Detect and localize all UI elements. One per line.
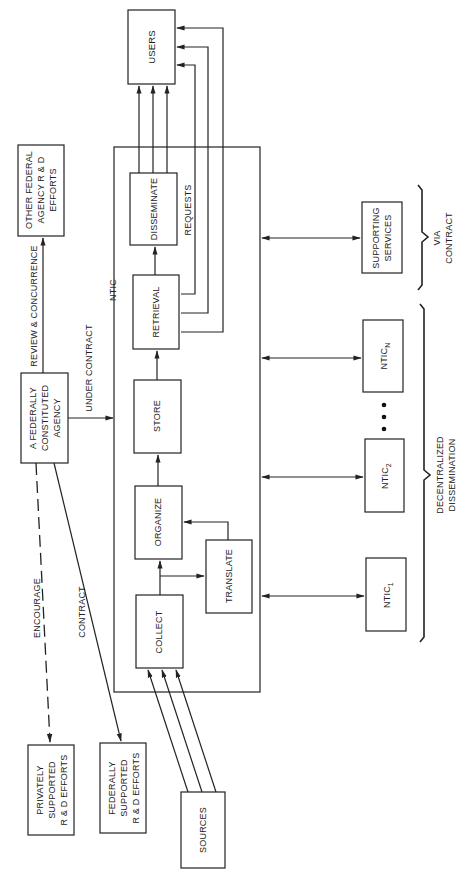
review-concurrence-label: REVIEW & CONCURRENCE xyxy=(29,245,39,367)
organize-node: ORGANIZE xyxy=(135,486,182,559)
users-node: USERS xyxy=(128,10,175,84)
users-label: USERS xyxy=(146,30,157,64)
contract-label: CONTRACT xyxy=(77,586,87,638)
supporting-services-line1: SUPPORTING xyxy=(371,207,381,268)
store-label: STORE xyxy=(152,400,162,432)
decentralized-brace xyxy=(420,304,430,642)
organize-label: ORGANIZE xyxy=(153,498,163,547)
ntic-1-node: NTIC1 xyxy=(366,558,406,631)
supporting-services-line2: SERVICES xyxy=(383,215,393,262)
privately-supported-node: PRIVATELY SUPPORTED R & D EFFORTS xyxy=(28,745,74,835)
federal-agency-line2: CONSTITUTED xyxy=(40,385,50,451)
federally-supported-line3: R & D EFFORTS xyxy=(131,753,141,824)
federally-supported-line2: SUPPORTED xyxy=(119,759,129,817)
sources-label: SOURCES xyxy=(198,807,208,853)
retrieval-node: RETRIEVAL xyxy=(133,275,179,349)
ellipsis-dots xyxy=(382,403,387,432)
privately-supported-line2: SUPPORTED xyxy=(47,761,57,819)
ntic-2-node: NTIC2 xyxy=(365,439,404,512)
privately-supported-line1: PRIVATELY xyxy=(35,765,45,814)
ntic-label: NTIC xyxy=(108,279,118,301)
via-contract-brace xyxy=(418,185,428,290)
other-federal-line2: AGENCY R & D xyxy=(36,156,46,223)
contract-arrow xyxy=(54,463,121,741)
sources-node: SOURCES xyxy=(181,792,225,868)
privately-supported-line3: R & D EFFORTS xyxy=(59,755,69,826)
federal-agency-line3: AGENCY xyxy=(52,398,62,437)
other-federal-agency-node: OTHER FEDERAL AGENCY R & D EFFORTS xyxy=(18,145,64,236)
requests-label: REQUESTS xyxy=(183,184,193,235)
encourage-label: ENCOURAGE xyxy=(32,578,42,638)
other-federal-line3: EFFORTS xyxy=(48,168,58,211)
federal-agency-line1: A FEDERALLY xyxy=(28,387,38,449)
federally-supported-line1: FEDERALLY xyxy=(107,761,117,815)
supporting-services-node: SUPPORTING SERVICES xyxy=(362,202,402,273)
ntic-n-node: NTICN xyxy=(363,320,403,392)
translate-label: TRANSLATE xyxy=(224,549,234,603)
collect-node: COLLECT xyxy=(136,595,183,668)
via-contract-line1: VIA xyxy=(432,230,442,245)
disseminate-label: DISSEMINATE xyxy=(149,178,159,241)
federally-supported-node: FEDERALLY SUPPORTED R & D EFFORTS xyxy=(100,743,146,833)
via-contract-line2: CONTRACT xyxy=(444,212,454,264)
under-contract-label: UNDER CONTRACT xyxy=(84,324,94,412)
ntic-flow-diagram: NTIC USERS OTHER FEDERAL AGENCY R & D EF… xyxy=(0,0,471,877)
store-node: STORE xyxy=(134,380,181,453)
decentralized-line2: DISSEMINATION xyxy=(447,439,457,512)
decentralized-line1: DECENTRALIZED xyxy=(435,436,445,514)
retrieval-label: RETRIEVAL xyxy=(151,286,161,337)
disseminate-node: DISSEMINATE xyxy=(130,173,177,245)
translate-node: TRANSLATE xyxy=(206,540,252,613)
collect-label: COLLECT xyxy=(154,610,164,653)
other-federal-line1: OTHER FEDERAL xyxy=(24,151,34,229)
federal-agency-node: A FEDERALLY CONSTITUTED AGENCY xyxy=(21,373,68,463)
